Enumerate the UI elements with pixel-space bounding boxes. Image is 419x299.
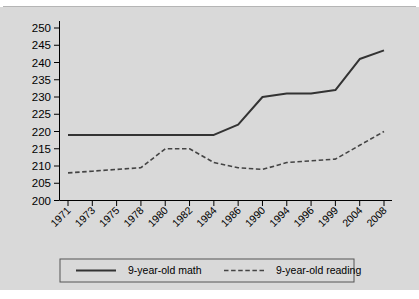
y-tick-label: 205 bbox=[32, 177, 51, 189]
page-bottom-margin bbox=[0, 290, 419, 299]
chart-svg: 200205210215220225230235240245250 197119… bbox=[0, 7, 419, 290]
y-tick-label: 235 bbox=[32, 74, 51, 86]
legend-label-math: 9-year-old math bbox=[128, 264, 202, 276]
y-tick-label: 250 bbox=[32, 22, 51, 34]
y-tick-label: 200 bbox=[32, 195, 51, 207]
y-tick-label: 220 bbox=[32, 126, 51, 138]
y-tick-label: 240 bbox=[32, 57, 51, 69]
chart-page: 200205210215220225230235240245250 197119… bbox=[0, 0, 419, 299]
chart-legend: 9-year-old math9-year-old reading bbox=[60, 259, 361, 282]
y-axis-tick-labels: 200205210215220225230235240245250 bbox=[32, 22, 51, 207]
y-tick-label: 210 bbox=[32, 160, 51, 172]
y-tick-label: 225 bbox=[32, 108, 51, 120]
chart-background bbox=[0, 7, 419, 290]
line-chart: 200205210215220225230235240245250 197119… bbox=[0, 7, 419, 290]
y-tick-label: 245 bbox=[32, 39, 51, 51]
y-tick-label: 215 bbox=[32, 143, 51, 155]
y-tick-label: 230 bbox=[32, 91, 51, 103]
legend-label-reading: 9-year-old reading bbox=[276, 264, 361, 276]
